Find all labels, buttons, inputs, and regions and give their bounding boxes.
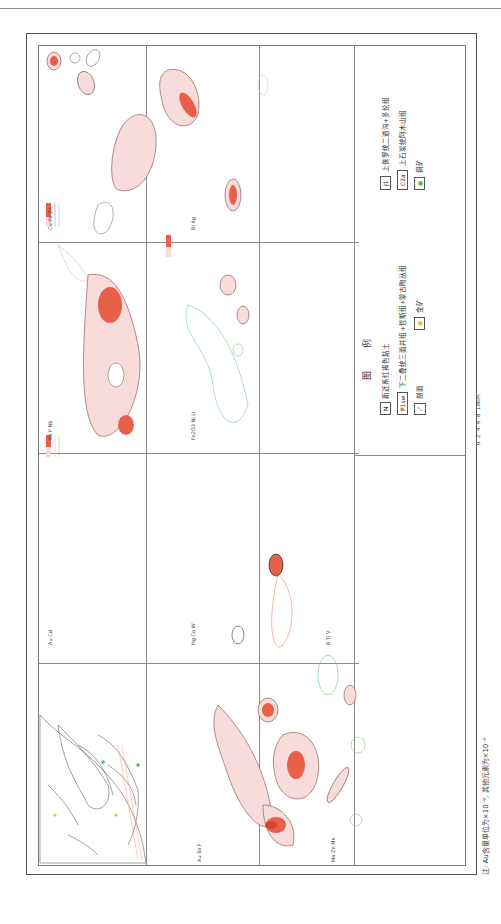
panel-b-ti-v xyxy=(273,655,338,799)
panel-bi-ag xyxy=(160,69,268,257)
legend-symbol-j1: J1 xyxy=(380,176,391,190)
legend-item-copper: ●铜矿 xyxy=(414,159,425,190)
legend-item-profile: ⟋剖面 xyxy=(414,385,426,415)
figure-note: 注: Au含量单位为×10⁻⁹, 其他元素为×10⁻⁶ xyxy=(480,737,490,875)
legend-item-p1sw: P1sw下二叠统三面井组+哲斯组+蒙古陶丛组 xyxy=(397,265,408,415)
panel-au-cd xyxy=(269,554,292,647)
legend-item-c2a: C2a上石炭统阿木山组 xyxy=(397,110,408,190)
panel-mo-zn-mn xyxy=(324,685,365,826)
panel-legend-fe-ni-li: Fe2O3 Ni Li xyxy=(190,412,196,441)
legend-item-j1: J1上侏罗统二道沟+多伦组 xyxy=(380,97,391,190)
legend-title: 图 例 xyxy=(360,329,373,380)
legend-symbol-c2a: C2a xyxy=(397,170,408,190)
profile-line-icon: ⟋ xyxy=(414,403,426,415)
panel-sb-p-nb xyxy=(46,245,140,457)
legend-symbol-p1sw: P1sw xyxy=(397,392,408,415)
panel-fe-ni-li xyxy=(186,275,249,422)
copper-deposit-icon: ● xyxy=(414,177,425,190)
panel-legend-sb-p-nb: Sb P Nb xyxy=(47,421,53,440)
legend-item-n: N新近系红褐色黏土 xyxy=(380,343,391,416)
panel-legend-cu-pb-zn: Cu Pb Zn xyxy=(47,207,53,230)
page-top-rule xyxy=(0,8,501,9)
panel-legend-hg-co-w: Hg Co W xyxy=(190,623,196,645)
gold-deposit-icon: ● xyxy=(414,317,425,330)
panel-legend-au-sn-f: Au Sn F xyxy=(196,843,202,862)
panel-legend-bi-ag: Bi Ag xyxy=(190,217,196,230)
panel-hg-co-w xyxy=(232,626,278,722)
legend-symbol-n: N xyxy=(380,403,391,416)
geologic-map xyxy=(40,715,146,863)
scale-bar: 0 2 4 6 8 10km xyxy=(475,394,481,445)
panel-legend-au-cd: Au Cd xyxy=(47,630,53,645)
panel-legend-mo-zn-mn: Mo Zn Mn xyxy=(330,837,336,862)
panel-legend-b-ti-v: B Ti V xyxy=(325,631,331,645)
legend-item-gold: ●金矿 xyxy=(414,299,425,330)
panel-cu-pb-zn xyxy=(46,47,156,234)
